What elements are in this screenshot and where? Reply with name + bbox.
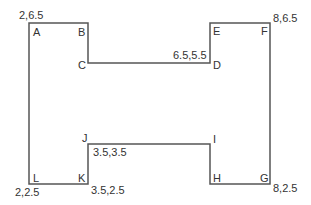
- coord-label-f: 8,6.5: [273, 12, 297, 24]
- h-shape-diagram: A B C D E F G H I J K L 2,6.5 6.5,5.5 8,…: [0, 0, 311, 205]
- vertex-label-c: C: [78, 59, 86, 71]
- vertex-label-i: I: [213, 133, 216, 145]
- coord-label-j: 3.5,3.5: [93, 146, 127, 158]
- vertex-label-e: E: [213, 25, 220, 37]
- coord-label-l: 2,2.5: [15, 186, 39, 198]
- coord-label-g: 8,2.5: [273, 182, 297, 194]
- vertex-label-d: D: [213, 59, 221, 71]
- vertex-label-f: F: [261, 25, 268, 37]
- h-shape-outline: [29, 23, 270, 184]
- coord-label-k: 3.5,2.5: [91, 184, 125, 196]
- vertex-label-h: H: [213, 172, 221, 184]
- vertex-label-j: J: [82, 132, 88, 144]
- vertex-label-a: A: [33, 26, 41, 38]
- vertex-label-k: K: [78, 172, 86, 184]
- coord-label-a: 2,6.5: [19, 9, 43, 21]
- vertex-label-b: B: [78, 26, 85, 38]
- vertex-label-l: L: [33, 172, 39, 184]
- vertex-label-g: G: [260, 172, 269, 184]
- coord-label-d: 6.5,5.5: [173, 49, 207, 61]
